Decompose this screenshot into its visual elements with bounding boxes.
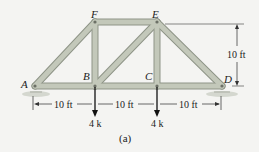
- node-label-a: A: [20, 78, 28, 90]
- height-dimension-label: 10 ft: [227, 49, 246, 60]
- member-ed: [157, 22, 222, 86]
- height-dimension: 10 ft: [165, 24, 246, 86]
- node-label-e: E: [151, 8, 159, 20]
- span-label-cd: 10 ft: [179, 99, 198, 110]
- node-label-c: C: [145, 70, 153, 82]
- node-label-d: D: [223, 73, 232, 85]
- load-label-b: 4 k: [89, 118, 102, 129]
- node-label-f: F: [90, 8, 98, 20]
- truss-members: [35, 22, 222, 86]
- span-label-bc: 10 ft: [115, 99, 134, 110]
- truss-diagram: A B C D E F 10 ft 10 ft 10 ft 10 ft 4 k …: [0, 0, 259, 152]
- load-label-c: 4 k: [151, 118, 164, 129]
- node-label-b: B: [83, 70, 90, 82]
- figure-caption: (a): [119, 132, 132, 145]
- load-arrow-b: [92, 87, 98, 117]
- dim-arrow: [215, 102, 220, 106]
- span-label-ab: 10 ft: [54, 99, 73, 110]
- dim-arrow: [34, 102, 39, 106]
- load-arrow-c: [154, 87, 160, 117]
